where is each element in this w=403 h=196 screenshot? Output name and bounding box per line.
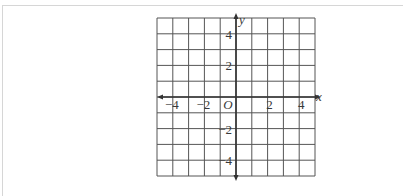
x-tick-label: 4 bbox=[298, 97, 305, 112]
x-axis-arrow-left-icon bbox=[157, 95, 163, 100]
x-axis-label: x bbox=[315, 89, 322, 104]
y-tick-label: −4 bbox=[218, 153, 232, 168]
origin-label: O bbox=[223, 97, 233, 112]
x-tick-label: −2 bbox=[196, 97, 210, 112]
x-tick-label: 2 bbox=[266, 97, 273, 112]
y-axis-arrow-down-icon bbox=[234, 175, 239, 181]
y-tick-label: 2 bbox=[226, 58, 233, 73]
y-tick-label: −2 bbox=[218, 122, 232, 137]
y-axis-label: y bbox=[237, 12, 245, 27]
y-axis-arrow-up-icon bbox=[234, 13, 239, 19]
y-tick-label: 4 bbox=[226, 27, 233, 42]
axes bbox=[157, 13, 321, 181]
x-tick-label: −4 bbox=[165, 97, 179, 112]
